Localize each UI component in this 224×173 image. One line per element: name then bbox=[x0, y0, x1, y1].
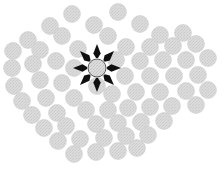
distractor-disc bbox=[142, 99, 159, 116]
distractor-disc bbox=[165, 38, 182, 55]
distractor-disc bbox=[140, 127, 157, 144]
distractor-disc bbox=[72, 131, 89, 148]
distractor-disc bbox=[110, 143, 127, 160]
distractor-disc bbox=[64, 6, 81, 23]
distractor-disc bbox=[156, 113, 173, 130]
distractor-disc bbox=[32, 72, 49, 89]
distractor-disc bbox=[4, 60, 21, 77]
distractor-disc bbox=[78, 102, 95, 119]
disc-field-figure bbox=[0, 0, 224, 173]
distractor-disc bbox=[48, 53, 65, 70]
distractor-disc bbox=[129, 140, 146, 157]
distractor-disc bbox=[25, 56, 42, 73]
distractor-disc bbox=[178, 83, 195, 100]
distractor-disc bbox=[38, 90, 55, 107]
distractor-disc bbox=[166, 68, 183, 85]
distractor-disc bbox=[142, 68, 159, 85]
distractor-disc bbox=[152, 84, 169, 101]
distractor-disc bbox=[200, 50, 217, 67]
distractor-disc bbox=[200, 82, 217, 99]
distractor-disc bbox=[66, 146, 83, 163]
distractor-disc bbox=[128, 84, 145, 101]
disc-field-canvas bbox=[0, 0, 224, 173]
distractor-disc bbox=[100, 28, 117, 45]
distractor-disc bbox=[54, 28, 71, 45]
target-layer bbox=[88, 59, 106, 77]
distractor-disc bbox=[54, 75, 71, 92]
distractor-disc bbox=[36, 120, 53, 137]
distractor-disc bbox=[5, 43, 22, 60]
distractor-disc bbox=[50, 133, 67, 150]
distractor-disc bbox=[88, 144, 105, 161]
distractor-disc bbox=[178, 52, 195, 69]
distractor-disc bbox=[24, 107, 41, 124]
distractor-disc bbox=[142, 39, 159, 56]
distractor-disc bbox=[188, 36, 205, 53]
highlighted-center-disc bbox=[88, 59, 106, 77]
distractor-disc bbox=[6, 78, 23, 95]
distractor-disc bbox=[58, 118, 75, 135]
distractor-disc bbox=[117, 68, 134, 85]
distractor-disc bbox=[188, 97, 205, 114]
distractor-disc bbox=[164, 98, 181, 115]
distractor-disc bbox=[132, 16, 149, 33]
distractor-disc bbox=[110, 4, 127, 21]
distractor-disc bbox=[86, 17, 103, 34]
distractor-disc bbox=[132, 53, 149, 70]
distractor-disc bbox=[14, 93, 31, 110]
distractor-disc bbox=[190, 67, 207, 84]
distractor-disc bbox=[120, 100, 137, 117]
distractor-disc bbox=[155, 52, 172, 69]
distractor-disc bbox=[104, 86, 121, 103]
